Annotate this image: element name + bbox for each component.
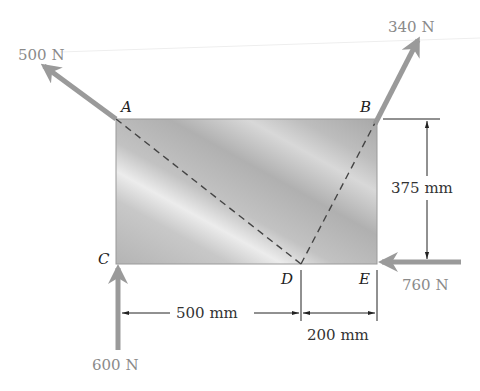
rigid-plate <box>116 119 377 264</box>
force-label-500N: 500 N <box>18 46 65 64</box>
point-label-E: E <box>358 270 370 288</box>
point-label-D: D <box>280 270 293 288</box>
free-body-diagram: 500 N 340 N 600 N 760 N A B C D E 375 mm… <box>0 0 480 391</box>
dim-label-375mm: 375 mm <box>391 179 453 197</box>
force-label-340N: 340 N <box>388 18 435 36</box>
force-arrow-500N <box>44 66 116 119</box>
force-label-760N: 760 N <box>402 276 449 294</box>
point-label-C: C <box>98 250 110 268</box>
point-label-A: A <box>119 98 132 116</box>
force-label-600N: 600 N <box>92 356 139 374</box>
point-label-B: B <box>359 98 371 116</box>
dim-label-500mm: 500 mm <box>176 304 238 322</box>
dim-label-200mm: 200 mm <box>307 326 369 344</box>
force-arrow-340N <box>375 40 418 124</box>
